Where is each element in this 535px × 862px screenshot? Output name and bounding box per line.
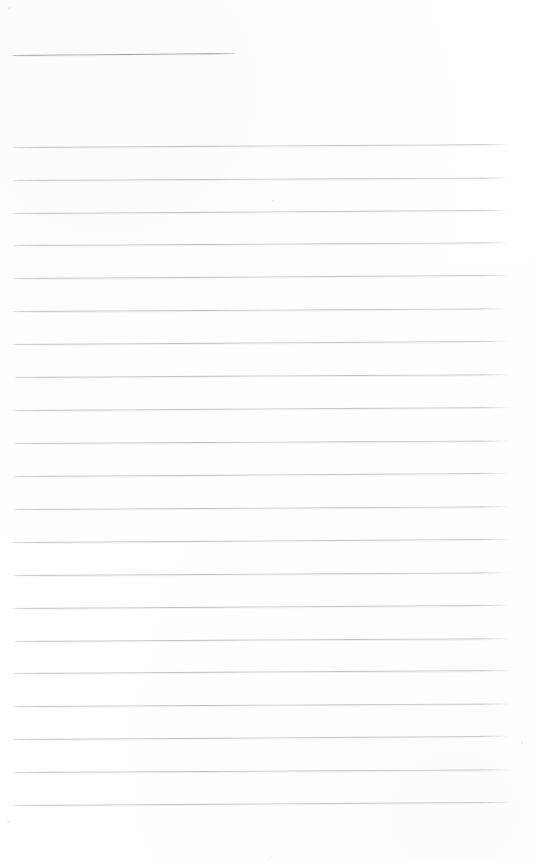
ruled-line	[11, 341, 509, 345]
ruled-line	[12, 242, 510, 246]
scan-speck	[8, 7, 11, 10]
ruled-line	[11, 605, 509, 609]
ruled-line	[12, 308, 510, 312]
ruled-line	[11, 275, 511, 279]
scan-speck	[521, 742, 523, 744]
ruled-line	[12, 703, 510, 707]
ruled-line	[12, 769, 510, 773]
scanned-page	[0, 0, 535, 862]
ruled-line	[11, 802, 511, 806]
scan-speck	[270, 856, 272, 858]
page-body-text	[0, 0, 1, 1]
paper-texture	[0, 0, 535, 862]
ruled-line	[12, 374, 510, 378]
ruled-line	[11, 144, 510, 148]
scan-speck	[272, 200, 274, 202]
ruled-line	[11, 736, 509, 740]
ruled-line	[12, 638, 510, 642]
ruled-line	[11, 473, 509, 477]
ruled-line	[12, 177, 511, 181]
title-blank-rule	[11, 53, 237, 56]
ruled-line	[12, 440, 510, 444]
ruled-line	[11, 210, 509, 214]
ruled-line	[12, 572, 510, 576]
scan-speck	[7, 820, 10, 823]
ruled-line	[12, 506, 510, 510]
ruled-line	[11, 407, 511, 411]
page-title-text	[0, 0, 1, 1]
ruled-line	[11, 670, 511, 674]
ruled-line	[11, 539, 511, 543]
